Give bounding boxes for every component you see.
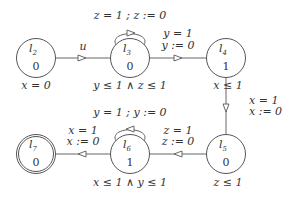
location-value: 0 [127,60,134,73]
location-l2: l2 0 x = 0 [17,39,56,93]
timed-automaton-diagram: u z = 1 ; z := 0 y = 1 y := 0 x = 1 x :=… [0,0,292,201]
edge-reset-l4-l5: x := 0 [249,105,282,118]
location-invariant: z ≤ 1 [212,176,242,189]
location-invariant: y ≤ 1 ∧ z ≤ 1 [92,79,166,92]
edge-l3-l4: y = 1 y := 0 [149,27,207,61]
edge-reset-l5-l6: z := 0 [161,135,195,148]
location-invariant: x ≤ 1 ∧ y ≤ 1 [93,176,167,189]
arrow-head-icon [174,55,182,61]
location-value: 0 [33,60,40,73]
arrow-head-icon [78,55,86,61]
edge-label-l6-loop: y = 1 ; y := 0 [92,106,166,119]
arrow-head-icon [78,151,86,157]
location-l6: l6 1 x ≤ 1 ∧ y ≤ 1 [93,135,167,190]
location-value: 1 [223,60,230,73]
location-l3: l3 0 y ≤ 1 ∧ z ≤ 1 [92,39,166,93]
arrow-head-icon [126,126,134,132]
arrow-head-icon [127,30,135,36]
arrow-head-icon [223,104,229,112]
edge-reset-l6-l7: x := 0 [66,135,99,148]
edge-l5-l6: z = 1 z := 0 [149,124,207,157]
location-value: 1 [127,156,134,169]
location-l5: l5 0 z ≤ 1 [207,135,246,190]
location-l4: l4 1 x ≤ 1 [207,39,246,93]
edge-label-l3-loop: z = 1 ; z := 0 [93,9,166,22]
edge-reset-l3-l4: y := 0 [160,39,194,52]
location-l7: l7 0 [17,135,56,174]
edge-l2-l3: u [56,40,111,61]
location-invariant: x ≤ 1 [213,79,242,92]
edge-label-l2-l3: u [79,40,86,53]
location-value: 0 [223,156,230,169]
arrow-head-icon [174,151,182,157]
location-invariant: x = 0 [21,79,50,92]
edge-l6-l7: x = 1 x := 0 [56,124,111,157]
location-value: 0 [33,156,40,169]
